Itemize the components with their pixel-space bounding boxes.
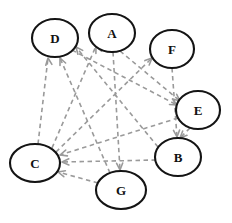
node-label: F	[168, 42, 176, 57]
graph-node-a[interactable]: A	[89, 14, 135, 52]
edge-c-to-f	[56, 58, 152, 152]
graph-node-d[interactable]: D	[32, 19, 78, 57]
edge-line	[113, 52, 120, 170]
graph-node-b[interactable]: B	[155, 138, 201, 176]
node-label: B	[174, 150, 183, 165]
edge-line	[38, 58, 48, 144]
edge-line	[52, 46, 96, 148]
graph-node-f[interactable]: F	[150, 30, 194, 68]
arrowhead-icon	[60, 150, 67, 156]
edge-line	[62, 160, 156, 162]
edge-c-to-d	[38, 58, 52, 144]
graph-node-e[interactable]: E	[176, 91, 220, 129]
node-label: E	[194, 103, 203, 118]
node-label: A	[107, 26, 117, 41]
graph-node-g[interactable]: G	[96, 171, 146, 209]
directed-graph-figure: DAFEBGC	[0, 0, 232, 223]
edge-line	[56, 58, 152, 152]
node-label: D	[50, 31, 59, 46]
edge-b-to-c	[62, 159, 156, 165]
graph-node-c[interactable]: C	[10, 144, 60, 182]
graph-canvas: DAFEBGC	[0, 0, 232, 223]
edge-g-to-c	[58, 171, 98, 183]
edge-a-to-g	[113, 52, 123, 170]
edge-e-to-b	[180, 128, 190, 138]
node-label: G	[116, 183, 126, 198]
edge-line	[58, 172, 98, 183]
arrowhead-icon	[46, 58, 52, 65]
node-label: C	[30, 156, 39, 171]
